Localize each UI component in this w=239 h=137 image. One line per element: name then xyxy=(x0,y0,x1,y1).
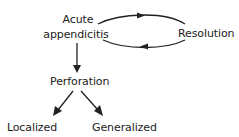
arrow-resolution-to-acute xyxy=(103,40,185,50)
arrow-acute-to-resolution xyxy=(98,13,185,25)
arrowhead-right-icon xyxy=(137,13,145,19)
arrow-acute-to-perforation xyxy=(73,43,81,73)
node-acute-appendicitis-line2: appendicitis xyxy=(43,28,109,41)
appendicitis-flow-diagram: Acute appendicitis Resolution Perforatio… xyxy=(0,0,239,137)
node-localized: Localized xyxy=(6,121,58,134)
arrow-perforation-to-generalized xyxy=(81,91,103,116)
diagram-arrows xyxy=(0,0,239,137)
node-resolution: Resolution xyxy=(178,27,234,40)
node-generalized: Generalized xyxy=(92,121,154,134)
arrowhead-down-icon xyxy=(73,65,81,73)
node-acute-appendicitis-line1: Acute xyxy=(56,13,100,26)
arrow-perforation-to-localized xyxy=(53,91,73,116)
node-perforation: Perforation xyxy=(50,75,104,88)
arrowhead-left-icon xyxy=(140,44,148,50)
